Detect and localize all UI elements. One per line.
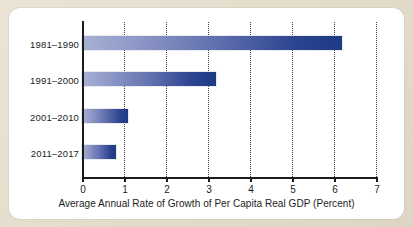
tick-mark-0: [82, 177, 84, 182]
bar-2001-2010: [82, 109, 128, 123]
tick-mark-2: [166, 177, 168, 182]
x-tick-label-6: 6: [325, 184, 345, 195]
tick-mark-7: [376, 177, 378, 182]
tick-mark-5: [292, 177, 294, 182]
tick-mark-1: [124, 177, 126, 182]
x-tick-label-2: 2: [157, 184, 177, 195]
y-axis-label-2: 2001–2010: [30, 112, 79, 123]
x-tick-label-0: 0: [73, 184, 93, 195]
x-tick-label-3: 3: [199, 184, 219, 195]
chart-panel: 1981–1990 1991–2000 2001–2010 2011–2017: [9, 8, 404, 219]
x-axis-title: Average Annual Rate of Growth of Per Cap…: [9, 198, 404, 209]
tick-mark-6: [334, 177, 336, 182]
y-axis-label-3: 2011–2017: [31, 148, 79, 159]
bar-1991-2000: [82, 72, 216, 86]
y-axis-line: [82, 21, 84, 178]
tick-mark-3: [208, 177, 210, 182]
x-tick-label-7: 7: [367, 184, 387, 195]
tick-mark-4: [250, 177, 252, 182]
bar-1981-1990: [82, 36, 342, 50]
plot-area: [82, 22, 376, 177]
figure-root: 1981–1990 1991–2000 2001–2010 2011–2017: [0, 0, 413, 227]
x-tick-label-1: 1: [115, 184, 135, 195]
x-tick-label-4: 4: [241, 184, 261, 195]
bar-2011-2017: [82, 145, 116, 159]
x-tick-label-5: 5: [283, 184, 303, 195]
gridline-7: [376, 22, 377, 177]
y-axis-labels: 1981–1990 1991–2000 2001–2010 2011–2017: [9, 8, 79, 219]
y-axis-label-0: 1981–1990: [30, 39, 79, 50]
y-axis-label-1: 1991–2000: [30, 75, 79, 86]
